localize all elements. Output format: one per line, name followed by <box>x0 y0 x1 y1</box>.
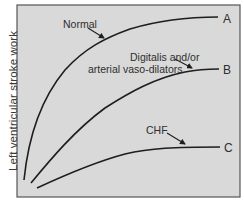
annotation-normal: Normal <box>63 18 97 30</box>
plot-svg: Normal Digitalis and/or arterial vaso-di… <box>0 0 244 203</box>
curve-label-c: C <box>224 141 233 155</box>
ventricular-function-diagram: Left ventricular stroke work Normal Digi… <box>0 0 244 203</box>
y-axis-label: Left ventricular stroke work <box>7 26 21 176</box>
curve-label-a: A <box>223 12 231 26</box>
annotation-digitalis-line2: arterial vaso-dilators <box>88 63 183 75</box>
annotation-digitalis-line1: Digitalis and/or <box>130 51 200 63</box>
annotation-chf: CHF <box>146 124 168 136</box>
curve-label-b: B <box>223 63 231 77</box>
plot-area <box>17 5 240 197</box>
